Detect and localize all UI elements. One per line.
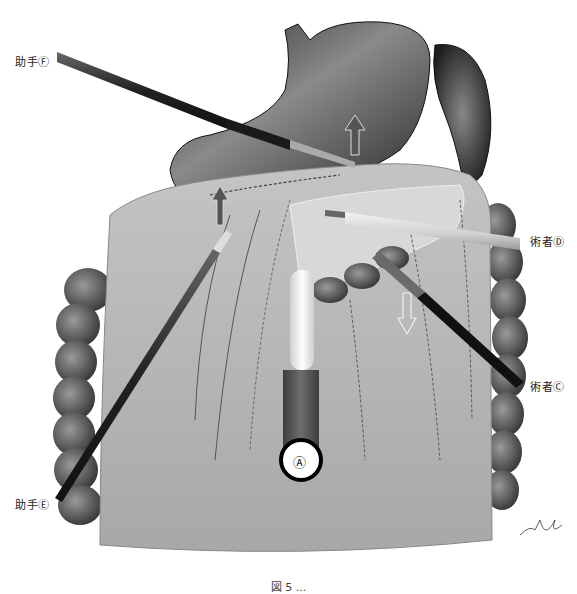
label-surgeon-d: 術者Ⓓ bbox=[530, 233, 565, 249]
label-assistant-f: 助手Ⓕ bbox=[15, 53, 50, 69]
figure-caption: 図 5 ... bbox=[0, 578, 577, 594]
label-port-a: Ⓐ bbox=[293, 452, 307, 471]
spleen bbox=[434, 44, 491, 182]
label-assistant-e: 助手Ⓔ bbox=[15, 496, 50, 512]
artist-signature bbox=[520, 520, 562, 535]
label-surgeon-c: 術者Ⓒ bbox=[530, 378, 565, 394]
